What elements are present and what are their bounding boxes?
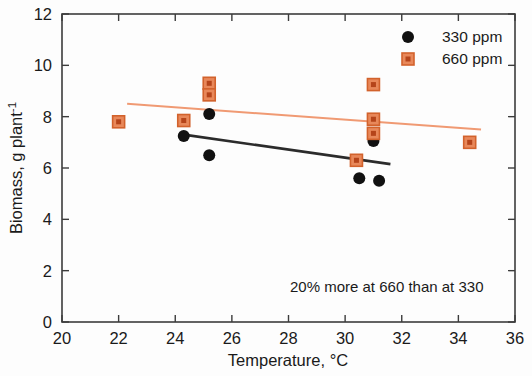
y-tick-label: 4 bbox=[43, 210, 52, 228]
legend-label-660: 660 ppm bbox=[442, 50, 502, 67]
data-point-330 bbox=[353, 172, 365, 184]
data-point-660-core bbox=[181, 118, 186, 123]
legend-marker-660-core bbox=[406, 57, 411, 62]
data-point-330 bbox=[178, 130, 190, 142]
x-tick-label: 36 bbox=[506, 329, 524, 347]
y-tick-label: 6 bbox=[43, 159, 52, 177]
y-tick-label: 2 bbox=[43, 262, 52, 280]
data-point-660-core bbox=[371, 131, 376, 136]
y-tick-label: 8 bbox=[43, 108, 52, 126]
x-tick-label: 34 bbox=[449, 329, 467, 347]
legend-marker-330 bbox=[402, 31, 414, 43]
x-tick-label: 24 bbox=[166, 329, 184, 347]
y-tick-label: 0 bbox=[43, 313, 52, 331]
x-tick-label: 22 bbox=[109, 329, 127, 347]
x-axis-title: Temperature, °C bbox=[228, 351, 348, 369]
x-tick-label: 28 bbox=[279, 329, 297, 347]
data-point-660-core bbox=[371, 82, 376, 87]
data-point-660-core bbox=[116, 119, 121, 124]
figure-container: 202224262830323436 024681012 Temperature… bbox=[0, 0, 532, 376]
legend-label-330: 330 ppm bbox=[442, 28, 502, 45]
y-axis-title-group: Biomass, g plant-1 bbox=[6, 102, 25, 234]
x-tick-label: 32 bbox=[393, 329, 411, 347]
y-axis-title: Biomass, g plant-1 bbox=[6, 102, 25, 234]
data-point-330 bbox=[203, 149, 215, 161]
x-tick-label: 30 bbox=[336, 329, 354, 347]
biomass-temperature-scatter-chart: 202224262830323436 024681012 Temperature… bbox=[0, 0, 532, 376]
data-point-660-core bbox=[467, 140, 472, 145]
data-point-330 bbox=[373, 175, 385, 187]
x-tick-label: 20 bbox=[53, 329, 71, 347]
y-tick-label: 12 bbox=[34, 5, 52, 23]
data-point-660-core bbox=[207, 81, 212, 86]
y-tick-label: 10 bbox=[34, 56, 52, 74]
data-point-330 bbox=[203, 108, 215, 120]
chart-annotation: 20% more at 660 than at 330 bbox=[290, 278, 483, 295]
data-point-660-core bbox=[354, 158, 359, 163]
data-point-660-core bbox=[371, 117, 376, 122]
data-point-660-core bbox=[207, 92, 212, 97]
x-tick-label: 26 bbox=[223, 329, 241, 347]
